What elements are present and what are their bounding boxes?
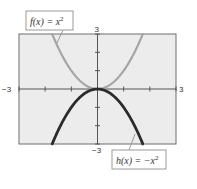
x-max-label: 3: [179, 85, 184, 94]
f-label-text: f(x) = x: [30, 16, 61, 28]
h-label-sup: 2: [155, 154, 159, 162]
h-label-text: h(x) = −x: [116, 155, 156, 167]
y-max-label: 3: [95, 25, 100, 34]
x-min-label: −3: [2, 85, 12, 94]
y-min-label: −3: [92, 146, 102, 155]
f-label-sup: 2: [60, 15, 64, 23]
svg-text:h(x) = −x2: h(x) = −x2: [116, 154, 159, 167]
chart: −3 3 3 −3 f(x) = x2 h(x) = −x2: [0, 0, 197, 189]
svg-text:f(x) = x2: f(x) = x2: [30, 15, 64, 28]
